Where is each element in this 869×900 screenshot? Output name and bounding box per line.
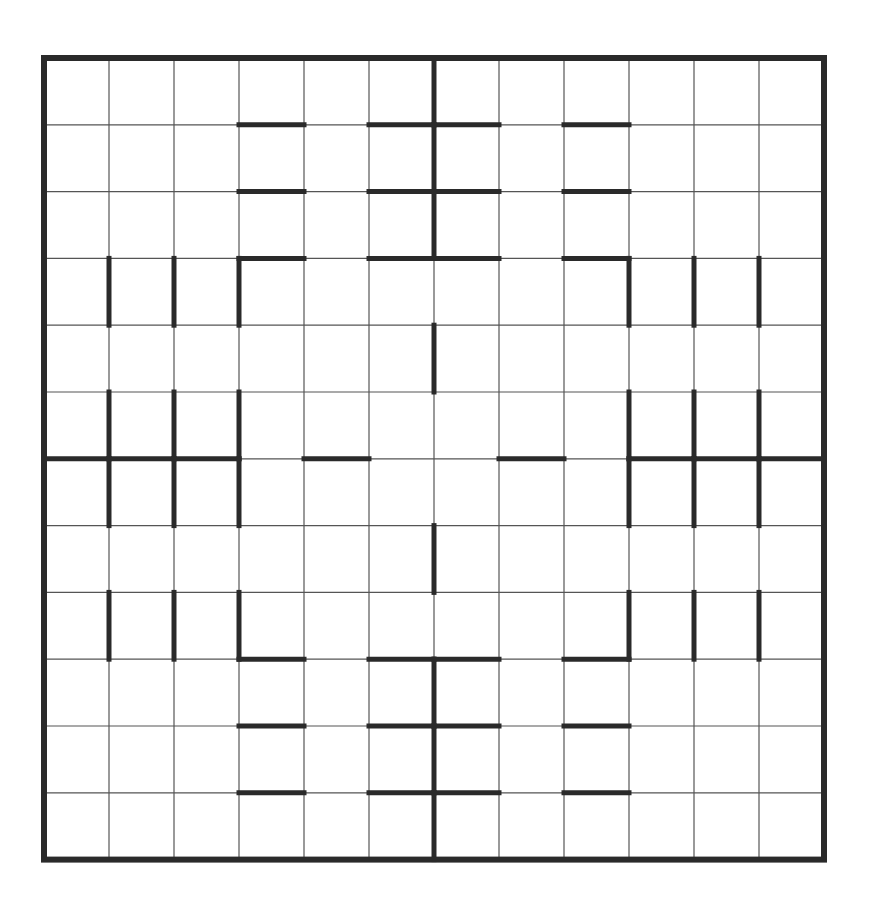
grid-cell[interactable] (564, 659, 629, 726)
grid-cell[interactable] (759, 325, 824, 392)
grid-cell[interactable] (174, 58, 239, 125)
grid-cell[interactable] (109, 392, 174, 459)
grid-cell[interactable] (304, 58, 369, 125)
grid-cell[interactable] (369, 793, 434, 860)
grid-cell[interactable] (629, 526, 694, 593)
grid-cell[interactable] (369, 325, 434, 392)
grid-cell[interactable] (759, 793, 824, 860)
grid-cell[interactable] (239, 659, 304, 726)
grid-cell[interactable] (564, 592, 629, 659)
grid-cell[interactable] (499, 258, 564, 325)
grid-cell[interactable] (629, 726, 694, 793)
grid-cell[interactable] (499, 58, 564, 125)
grid-cell[interactable] (109, 325, 174, 392)
grid-cell[interactable] (694, 258, 759, 325)
grid-cell[interactable] (629, 258, 694, 325)
grid-cell[interactable] (564, 325, 629, 392)
grid-cell[interactable] (629, 659, 694, 726)
grid-cell[interactable] (434, 58, 499, 125)
grid-cell[interactable] (759, 258, 824, 325)
grid-cell[interactable] (434, 526, 499, 593)
grid-cell[interactable] (759, 459, 824, 526)
grid-cell[interactable] (239, 592, 304, 659)
grid-cell[interactable] (499, 659, 564, 726)
grid-cell[interactable] (694, 726, 759, 793)
grid-cell[interactable] (369, 659, 434, 726)
grid-cell[interactable] (239, 58, 304, 125)
grid-cell[interactable] (499, 125, 564, 192)
grid-cell[interactable] (629, 125, 694, 192)
grid-cell[interactable] (109, 592, 174, 659)
grid-cell[interactable] (434, 592, 499, 659)
grid-cell[interactable] (434, 192, 499, 259)
grid-cell[interactable] (174, 392, 239, 459)
grid-cell[interactable] (694, 459, 759, 526)
grid-cell[interactable] (369, 459, 434, 526)
grid-cell[interactable] (434, 125, 499, 192)
grid-cell[interactable] (109, 459, 174, 526)
grid-cell[interactable] (109, 58, 174, 125)
grid-cell[interactable] (304, 793, 369, 860)
grid-cell[interactable] (44, 726, 109, 793)
grid-cell[interactable] (434, 459, 499, 526)
grid-cell[interactable] (44, 192, 109, 259)
grid-cell[interactable] (629, 58, 694, 125)
grid-cell[interactable] (109, 192, 174, 259)
grid-cell[interactable] (759, 392, 824, 459)
grid-cell[interactable] (239, 325, 304, 392)
grid-cell[interactable] (499, 325, 564, 392)
grid-cell[interactable] (109, 793, 174, 860)
grid-cell[interactable] (304, 659, 369, 726)
grid-cell[interactable] (239, 125, 304, 192)
grid-cell[interactable] (304, 192, 369, 259)
grid-cell[interactable] (694, 392, 759, 459)
grid-cell[interactable] (629, 459, 694, 526)
grid-cell[interactable] (304, 459, 369, 526)
grid-cell[interactable] (44, 793, 109, 860)
grid-cell[interactable] (44, 592, 109, 659)
grid-cell[interactable] (499, 726, 564, 793)
grid-cell[interactable] (759, 659, 824, 726)
grid-cell[interactable] (109, 258, 174, 325)
grid-cell[interactable] (434, 726, 499, 793)
grid-cell[interactable] (564, 793, 629, 860)
grid-cell[interactable] (694, 58, 759, 125)
grid-cell[interactable] (629, 793, 694, 860)
grid-cell[interactable] (759, 192, 824, 259)
grid-cell[interactable] (499, 459, 564, 526)
grid-cell[interactable] (499, 392, 564, 459)
grid-cell[interactable] (239, 793, 304, 860)
grid-cell[interactable] (629, 192, 694, 259)
grid-cell[interactable] (304, 592, 369, 659)
grid-cell[interactable] (239, 726, 304, 793)
grid-cell[interactable] (109, 659, 174, 726)
grid-cell[interactable] (694, 526, 759, 593)
grid-cell[interactable] (304, 526, 369, 593)
grid-cell[interactable] (239, 258, 304, 325)
grid-cell[interactable] (499, 192, 564, 259)
grid-cell[interactable] (174, 325, 239, 392)
grid-cell[interactable] (369, 526, 434, 593)
grid-cell[interactable] (694, 192, 759, 259)
grid-cell[interactable] (694, 125, 759, 192)
grid-cell[interactable] (239, 392, 304, 459)
grid-cell[interactable] (44, 258, 109, 325)
grid-cell[interactable] (434, 258, 499, 325)
grid-cell[interactable] (759, 726, 824, 793)
grid-cell[interactable] (304, 726, 369, 793)
grid-cell[interactable] (564, 392, 629, 459)
grid-cell[interactable] (304, 125, 369, 192)
grid-cell[interactable] (109, 526, 174, 593)
grid-cell[interactable] (759, 592, 824, 659)
grid-cell[interactable] (369, 258, 434, 325)
grid-cell[interactable] (564, 125, 629, 192)
grid-cell[interactable] (369, 58, 434, 125)
grid-cell[interactable] (369, 726, 434, 793)
grid-cell[interactable] (174, 258, 239, 325)
grid-cell[interactable] (44, 325, 109, 392)
grid-cell[interactable] (759, 125, 824, 192)
grid-cell[interactable] (109, 125, 174, 192)
grid-cell[interactable] (174, 659, 239, 726)
grid-cell[interactable] (239, 526, 304, 593)
grid-cell[interactable] (499, 526, 564, 593)
